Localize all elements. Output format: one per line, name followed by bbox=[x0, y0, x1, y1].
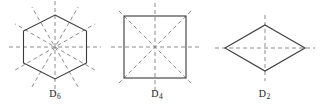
label-subscript-d4: 4 bbox=[159, 92, 163, 101]
figure-label-d6: D6 bbox=[0, 88, 110, 103]
figure-label-d2: D2 bbox=[207, 88, 322, 103]
label-subscript-d2: 2 bbox=[266, 92, 270, 101]
label-symbol-d6: D bbox=[49, 88, 56, 99]
label-symbol-d2: D bbox=[259, 88, 266, 99]
symmetry-groups-figure: D6 D4 bbox=[0, 0, 322, 110]
figure-panel-d2: D2 bbox=[207, 0, 322, 110]
figure-panel-d4: D4 bbox=[107, 0, 207, 110]
figure-panel-d6: D6 bbox=[0, 0, 110, 110]
label-subscript-d6: 6 bbox=[57, 92, 61, 101]
figure-label-d4: D4 bbox=[107, 88, 207, 103]
label-symbol-d4: D bbox=[151, 88, 158, 99]
